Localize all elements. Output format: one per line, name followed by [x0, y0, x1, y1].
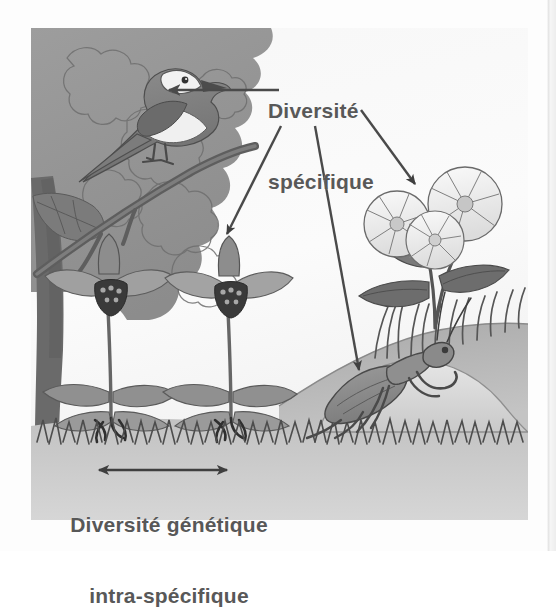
page-edge — [550, 0, 556, 551]
label-diversite-specifique: Diversité spécifique — [268, 52, 374, 240]
label-line-1: Diversité génétique — [44, 513, 294, 537]
label-line-2: intra-spécifique — [44, 584, 294, 608]
bindweed-flower — [406, 211, 464, 269]
label-diversite-genetique: Diversité génétique intra-spécifique — [44, 466, 294, 611]
label-line-2: spécifique — [268, 170, 374, 194]
label-line-1: Diversité — [268, 99, 374, 123]
